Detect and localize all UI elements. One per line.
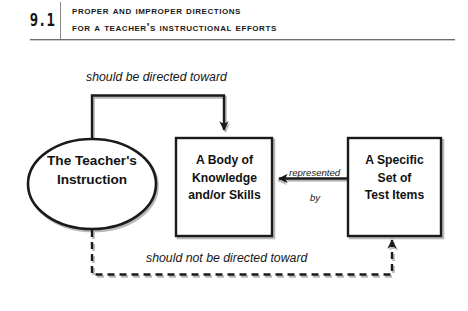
teacher-instruction-ellipse — [28, 139, 156, 229]
figure-title: Proper and Improper Directions for a Tea… — [72, 2, 452, 36]
figure-header: 9.1 Proper and Improper Directions for a… — [0, 0, 468, 44]
diagram-svg — [0, 44, 468, 311]
test-items-box — [348, 138, 441, 236]
figure-number: 9.1 — [30, 6, 55, 34]
node-layer — [28, 138, 441, 236]
proper-direction-edge-shadow — [94, 98, 226, 144]
header-vertical-divider — [60, 2, 61, 40]
body-of-knowledge-box — [176, 138, 272, 236]
proper-direction-edge — [92, 96, 224, 142]
figure-title-line-1: Proper and Improper Directions — [72, 2, 452, 19]
figure-title-line-2: for a Teacher's Instructional Efforts — [72, 19, 452, 36]
diagram-canvas — [0, 44, 468, 311]
header-rule-shadow — [30, 40, 455, 41]
figure-container: 9.1 Proper and Improper Directions for a… — [0, 0, 468, 311]
